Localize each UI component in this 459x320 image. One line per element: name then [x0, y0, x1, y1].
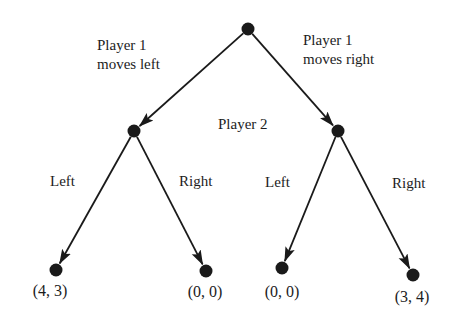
left-subtree-right-label: Right — [179, 172, 212, 191]
payoff-left-right: (0, 0) — [188, 283, 223, 301]
edge-p2_right-to-leaf_rl — [285, 137, 336, 261]
node-root — [242, 23, 255, 36]
edge-p2_left-to-leaf_ll — [60, 137, 131, 264]
p1-right-move-label: Player 1 moves right — [303, 31, 374, 69]
player2-label: Player 2 — [218, 115, 268, 134]
edge-p2_right-to-leaf_rr — [341, 137, 410, 268]
node-leaf-ll — [50, 264, 63, 277]
node-leaf-rl — [276, 262, 289, 275]
p1-right-line1: Player 1 — [303, 31, 374, 50]
node-p2-left — [128, 125, 141, 138]
p1-right-line2: moves right — [303, 50, 374, 69]
node-p2-right — [332, 125, 345, 138]
p1-left-move-label: Player 1 moves left — [97, 36, 160, 74]
payoff-left-left: (4, 3) — [33, 282, 68, 300]
node-leaf-lr — [200, 265, 213, 278]
payoff-right-left: (0, 0) — [265, 283, 300, 301]
node-leaf-rr — [407, 269, 420, 282]
p1-left-line2: moves left — [97, 55, 160, 74]
p1-left-line1: Player 1 — [97, 36, 160, 55]
edge-p2_left-to-leaf_lr — [137, 137, 203, 264]
game-tree-diagram — [0, 0, 459, 320]
left-subtree-left-label: Left — [50, 172, 75, 191]
right-subtree-right-label: Right — [392, 174, 425, 193]
right-subtree-left-label: Left — [265, 173, 290, 192]
payoff-right-right: (3, 4) — [395, 288, 430, 306]
